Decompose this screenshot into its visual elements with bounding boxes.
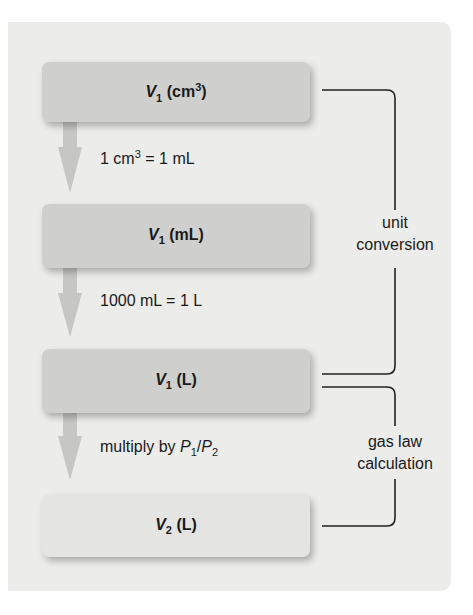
variable: V xyxy=(155,516,166,533)
step-text: multiply by xyxy=(100,438,180,455)
variable: V xyxy=(145,83,156,100)
arrow-3 xyxy=(58,413,82,480)
unit: (mL) xyxy=(165,226,204,243)
step-text: 1 cm xyxy=(100,150,135,167)
variable: V xyxy=(155,371,166,388)
down-arrows xyxy=(58,122,82,480)
label-line: unit xyxy=(340,212,450,234)
gas-law-bracket-top xyxy=(322,387,395,426)
gas-law-bracket-bottom xyxy=(322,479,395,526)
unit-close: ) xyxy=(201,83,206,100)
box-v1-ml: V1 (mL) xyxy=(42,204,310,268)
box-v1-l: V1 (L) xyxy=(42,349,310,413)
unit: (cm xyxy=(162,83,195,100)
box-v1-cm3: V1 (cm3) xyxy=(42,62,310,122)
pressure-1: P xyxy=(180,438,191,455)
unit-conversion-bracket-bottom xyxy=(322,268,395,374)
subscript: 2 xyxy=(212,446,218,458)
step-cm3-to-ml: 1 cm3 = 1 mL xyxy=(100,148,195,168)
unit: (L) xyxy=(172,371,197,388)
step-multiply-pressure: multiply by P1/P2 xyxy=(100,438,218,458)
unit-conversion-bracket-top xyxy=(322,90,395,210)
step-ml-to-l: 1000 mL = 1 L xyxy=(100,292,202,310)
step-text: = 1 mL xyxy=(141,150,195,167)
label-line: conversion xyxy=(340,234,450,256)
arrow-2 xyxy=(58,268,82,337)
arrow-1 xyxy=(58,122,82,193)
step-text: 1000 mL = 1 L xyxy=(100,292,202,309)
variable: V xyxy=(148,226,159,243)
unit-conversion-label: unit conversion xyxy=(340,212,450,256)
unit: (L) xyxy=(172,516,197,533)
pressure-2: P xyxy=(201,438,212,455)
box-v2-l: V2 (L) xyxy=(42,495,310,557)
label-line: gas law xyxy=(340,431,450,453)
label-line: calculation xyxy=(340,453,450,475)
gas-law-calculation-label: gas law calculation xyxy=(340,431,450,475)
